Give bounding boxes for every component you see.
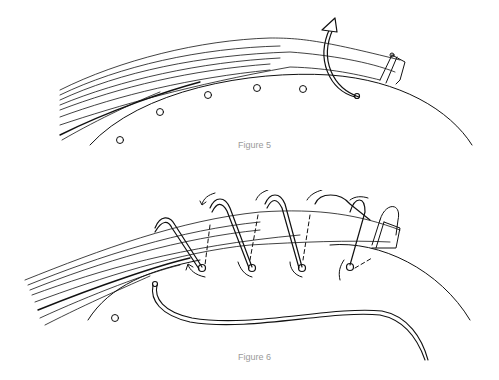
bundle-tie — [380, 53, 405, 84]
fiber-bundle — [60, 38, 400, 140]
fiber-bundle — [25, 211, 400, 325]
loose-cord-end — [152, 282, 428, 361]
figure-6-caption: Figure 6 — [238, 352, 271, 362]
rim-holes — [117, 85, 307, 144]
basket-rim — [88, 244, 470, 320]
rim-hole — [112, 315, 119, 322]
figure-5-illustration — [0, 0, 499, 190]
stitch-direction-arrows-icon — [186, 190, 368, 280]
basket-rim — [90, 74, 472, 145]
spiral-stitches — [155, 195, 370, 272]
figure-5-caption: Figure 5 — [238, 140, 271, 150]
